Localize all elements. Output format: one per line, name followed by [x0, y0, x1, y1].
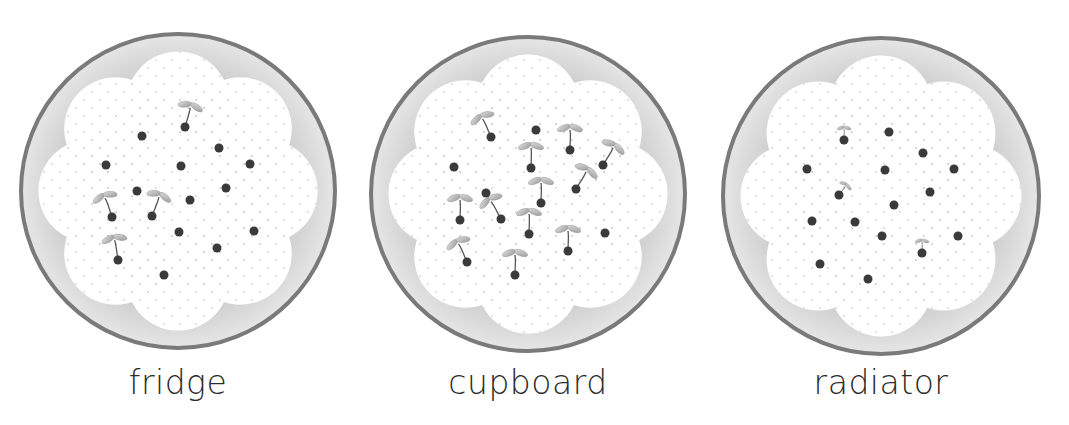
seed: [816, 260, 825, 269]
seed: [213, 244, 222, 253]
seed: [954, 232, 963, 241]
seed: [450, 163, 459, 172]
seed: [250, 227, 259, 236]
dish-label-fridge: fridge: [129, 366, 227, 399]
cotton-wool: [741, 56, 1022, 337]
seed: [177, 162, 186, 171]
seed: [926, 188, 935, 197]
seed: [246, 160, 255, 169]
seed: [160, 271, 169, 280]
seed: [532, 126, 541, 135]
seed: [601, 229, 610, 238]
seed: [215, 144, 224, 153]
dish-label-cupboard: cupboard: [448, 366, 607, 399]
seed: [186, 196, 195, 205]
seed: [919, 149, 928, 158]
seed: [950, 165, 959, 174]
seed: [222, 184, 231, 193]
petri-dish-fridge: [21, 34, 335, 348]
cotton-wool: [388, 54, 667, 333]
petri-dish-cupboard: [371, 37, 685, 351]
seed: [881, 166, 890, 175]
seed: [803, 165, 812, 174]
seed: [851, 218, 860, 227]
dish-label-radiator: radiator: [814, 366, 949, 399]
cotton-wool: [38, 51, 317, 330]
petri-dish-radiator: [723, 38, 1039, 354]
seed: [890, 201, 899, 210]
seed: [138, 132, 147, 141]
seed-germination-diagram: [0, 0, 1069, 425]
seed: [102, 161, 111, 170]
seed: [878, 232, 887, 241]
seed: [864, 275, 873, 284]
seed: [175, 228, 184, 237]
seed: [808, 217, 817, 226]
seed: [133, 187, 142, 196]
seed: [885, 128, 894, 137]
